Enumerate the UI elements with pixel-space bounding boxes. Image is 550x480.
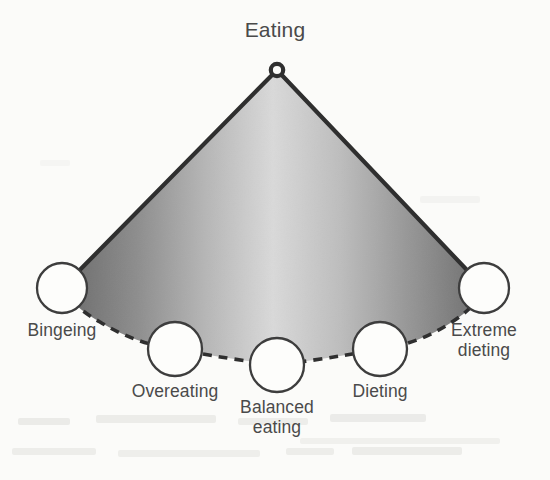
node-circle-dieting[interactable] xyxy=(353,322,407,376)
node-circle-bingeing[interactable] xyxy=(37,263,87,313)
node-label-bingeing: Bingeing xyxy=(0,320,124,340)
node-label-extreme-dieting-line1: Extreme xyxy=(424,320,544,340)
node-label-extreme-dieting-line2: dieting xyxy=(424,340,544,360)
node-circle-extreme-dieting[interactable] xyxy=(459,263,509,313)
node-label-dieting: Dieting xyxy=(310,381,450,401)
node-label-balanced-eating: Balanced eating xyxy=(207,397,347,437)
node-circle-overeating[interactable] xyxy=(148,322,202,376)
node-circle-balanced-eating[interactable] xyxy=(250,338,304,392)
eating-apex-node[interactable] xyxy=(271,64,283,76)
eating-continuum-diagram: Eating Bingeing Overeating Balanced eati… xyxy=(0,0,550,480)
node-label-balanced-eating-line2: eating xyxy=(207,417,347,437)
node-label-extreme-dieting: Extreme dieting xyxy=(424,320,544,360)
page-title: Eating xyxy=(0,18,550,42)
